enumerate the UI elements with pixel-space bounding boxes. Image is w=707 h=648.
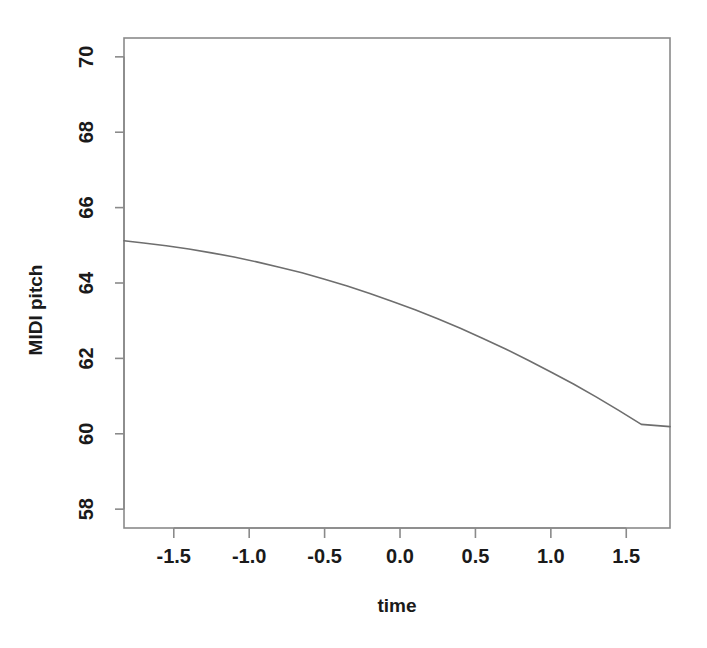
x-axis bbox=[174, 528, 626, 538]
y-tick-label: 64 bbox=[75, 271, 97, 294]
x-tick-label: -1.5 bbox=[157, 545, 191, 567]
y-tick-labels: 58606264666870 bbox=[75, 46, 97, 521]
y-tick-label: 60 bbox=[75, 423, 97, 445]
x-tick-label: 1.0 bbox=[537, 545, 565, 567]
plot-svg: 58606264666870 -1.5-1.0-0.50.00.51.01.5 … bbox=[0, 0, 707, 648]
x-tick-label: -0.5 bbox=[307, 545, 341, 567]
y-tick-label: 68 bbox=[75, 121, 97, 143]
x-tick-label: 0.5 bbox=[462, 545, 490, 567]
chart-canvas: 58606264666870 -1.5-1.0-0.50.00.51.01.5 … bbox=[0, 0, 707, 648]
plot-frame bbox=[124, 38, 670, 528]
y-tick-label: 62 bbox=[75, 347, 97, 369]
x-tick-labels: -1.5-1.0-0.50.00.51.01.5 bbox=[157, 545, 641, 567]
y-tick-label: 58 bbox=[75, 498, 97, 520]
y-axis bbox=[115, 57, 124, 509]
data-series-group bbox=[124, 241, 670, 427]
x-tick-label: 1.5 bbox=[612, 545, 640, 567]
x-tick-label: 0.0 bbox=[386, 545, 414, 567]
x-axis-title: time bbox=[377, 595, 416, 616]
y-axis-title: MIDI pitch bbox=[25, 265, 46, 356]
series-line bbox=[124, 241, 670, 427]
y-tick-label: 70 bbox=[75, 46, 97, 68]
y-tick-label: 66 bbox=[75, 196, 97, 218]
x-tick-label: -1.0 bbox=[232, 545, 266, 567]
